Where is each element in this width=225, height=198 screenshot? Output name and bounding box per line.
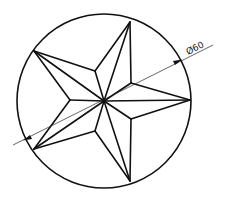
star-edge <box>34 100 70 149</box>
star-ridge-line <box>34 51 104 101</box>
star-edge <box>130 22 131 83</box>
star-valley-line <box>70 100 104 101</box>
star-valley-line <box>104 83 131 101</box>
star-ridge-line <box>34 101 104 149</box>
star-edge <box>34 51 70 100</box>
star-edge <box>95 131 130 181</box>
star-edge <box>131 100 190 119</box>
star <box>34 22 190 181</box>
star-edge <box>131 83 190 100</box>
star-edge <box>34 51 95 71</box>
star-ridge-line <box>104 22 130 101</box>
star-edge <box>130 119 131 181</box>
star-edge <box>95 22 130 71</box>
star-ridge-line <box>104 100 190 101</box>
star-valley-line <box>104 101 131 119</box>
star-edge <box>34 131 95 149</box>
star-ridge-line <box>104 101 130 181</box>
technical-drawing: Ø60 <box>0 0 225 198</box>
